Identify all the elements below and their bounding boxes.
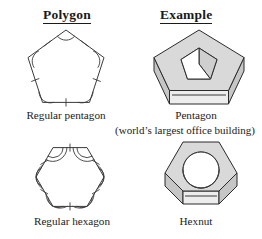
pentagon-building-diagram — [142, 26, 256, 108]
hexnut-bottom-wall — [183, 191, 219, 204]
caption-regular-hexagon: Regular hexagon — [16, 215, 128, 228]
pentagon-angle-arcs — [32, 36, 100, 103]
pentagon-outline — [28, 30, 104, 102]
regular-pentagon-diagram — [12, 26, 120, 108]
caption-regular-pentagon: Regular pentagon — [18, 109, 114, 122]
figure-sheet: Polygon Example — [0, 0, 262, 239]
caption-pentagon: Pentagon — [150, 109, 242, 122]
pentagon-building-bottom-wall — [170, 91, 229, 105]
hexagon-angle-arcs — [36, 148, 104, 209]
pentagon-side-ticks — [32, 41, 101, 106]
hexnut-diagram — [146, 140, 256, 214]
column-header-polygon: Polygon — [43, 8, 91, 24]
column-header-example: Example — [160, 8, 212, 24]
caption-hexnut: Hexnut — [152, 215, 240, 228]
caption-pentagon-sublabel: (world’s largest office building) — [111, 124, 259, 137]
regular-hexagon-diagram — [18, 142, 122, 212]
